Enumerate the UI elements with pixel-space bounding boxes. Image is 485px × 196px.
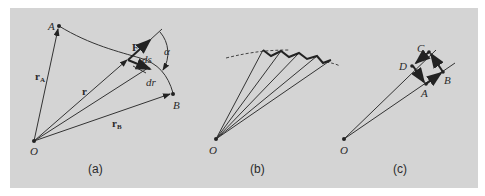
segment-AB [426,73,441,84]
label-B-c: B [444,74,451,86]
label-B: B [173,99,180,111]
caption-b: (b) [250,162,265,176]
point-B [171,92,175,96]
label-O-b: O [209,144,217,156]
point-D-c [410,64,414,68]
ray-3 [216,53,299,139]
point-C-c [427,50,431,54]
caption-c: (c) [393,162,407,176]
label-dr: dr [146,76,157,88]
ray-1 [216,50,263,139]
ray-2 [216,51,281,139]
label-A: A [47,20,55,32]
ray-5 [216,60,331,139]
vector-r-plus-dr [34,68,148,141]
diagram-a: A B O rA r rB F ds dr α (a) [30,20,180,176]
label-r: r [82,85,87,97]
label-alpha: α [164,45,170,57]
segment-DA [413,66,424,82]
point-A [57,24,61,28]
figure-svg: A B O rA r rB F ds dr α (a) O (b) [0,0,485,196]
vector-rA [34,29,58,141]
segment-BC [431,54,443,72]
caption-a: (a) [88,162,103,176]
point-A-c [424,82,428,86]
point-O-a [32,139,36,143]
ray-4 [216,56,317,139]
force-line-extension [150,29,162,40]
label-ds: ds [142,53,152,65]
diagram-b: O (b) [209,50,340,176]
label-rB: rB [112,117,122,131]
label-O-a: O [30,145,38,157]
curve-dashed-right [326,62,340,66]
point-O-c [342,137,346,141]
label-O-c: O [340,144,348,156]
label-C-c: C [417,42,425,54]
label-A-c: A [420,87,428,99]
point-O-b [214,137,218,141]
vector-rB [34,94,170,141]
diagram-c: A B C D O (c) [340,42,455,176]
label-D-c: D [398,60,407,72]
label-rA: rA [35,70,45,84]
path-curve-AB [59,26,173,93]
label-F: F [132,41,139,53]
